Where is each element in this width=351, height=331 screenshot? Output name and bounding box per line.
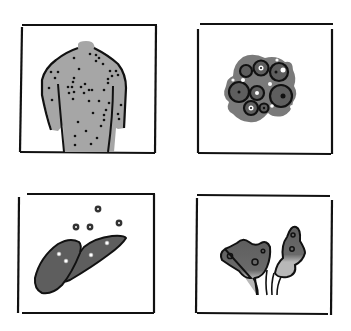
- panel-cell-cluster: [175, 0, 351, 165]
- panel-liver: [0, 165, 175, 331]
- cell-cluster-illustration: [175, 0, 351, 165]
- panel-back-with-spots: [0, 0, 175, 165]
- back-illustration: [0, 0, 175, 165]
- panel-tissue-growths: [175, 165, 351, 331]
- tissue-growths-illustration: [175, 165, 351, 331]
- liver-illustration: [0, 165, 175, 331]
